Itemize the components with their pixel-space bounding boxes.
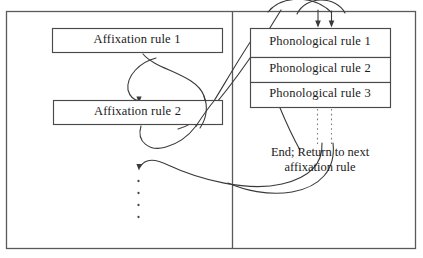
end-return-note-line-2: affixation rule [250, 160, 390, 175]
affixation-rule-2-label: Affixation rule 2 [53, 105, 222, 118]
continuation-dot [137, 216, 139, 218]
end-return-note: End; Return to next affixation rule [250, 145, 390, 175]
figure-canvas: Affixation rule 1 Affixation rule 2 Phon… [0, 0, 423, 258]
continuation-dot [137, 192, 139, 194]
continuation-dot [137, 180, 139, 182]
phonological-rule-3-label: Phonological rule 3 [250, 87, 390, 100]
continuation-dot [137, 204, 139, 206]
affixation-rule-1-label: Affixation rule 1 [52, 33, 222, 46]
end-return-note-line-1: End; Return to next [250, 145, 390, 160]
phonological-rule-1-label: Phonological rule 1 [250, 35, 390, 48]
phonological-rule-2-label: Phonological rule 2 [250, 62, 390, 75]
